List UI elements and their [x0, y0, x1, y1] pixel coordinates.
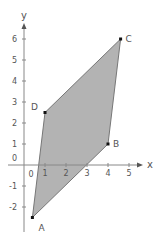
- y-tick-label: 1: [12, 140, 17, 149]
- point-c-marker: [119, 38, 122, 41]
- point-d-label: D: [31, 102, 38, 112]
- point-d-marker: [44, 111, 47, 114]
- y-axis-arrow-icon: [22, 23, 27, 29]
- origin-label-y: 0: [12, 154, 17, 163]
- parallelogram-abcd: [32, 39, 120, 218]
- parallelogram-chart: xy12345-2-112345600ABCD: [0, 0, 160, 244]
- y-tick-label: -1: [9, 182, 17, 191]
- point-c-label: C: [126, 34, 132, 44]
- y-tick-label: 4: [12, 77, 17, 86]
- point-b-marker: [107, 143, 110, 146]
- point-a-label: A: [38, 223, 45, 233]
- x-axis-title: x: [147, 159, 153, 170]
- x-tick-label: 1: [42, 169, 47, 178]
- y-axis-title: y: [21, 10, 27, 21]
- y-tick-label: -2: [9, 203, 17, 212]
- y-tick-label: 5: [12, 56, 17, 65]
- point-b-label: B: [113, 139, 119, 149]
- x-tick-label: 2: [63, 169, 68, 178]
- origin-label-x: 0: [28, 170, 33, 179]
- x-tick-label: 5: [126, 169, 131, 178]
- x-tick-label: 3: [84, 169, 89, 178]
- x-tick-label: 4: [105, 169, 110, 178]
- x-axis-arrow-icon: [137, 163, 143, 168]
- y-tick-label: 3: [12, 98, 17, 107]
- y-tick-label: 2: [12, 119, 17, 128]
- point-a-marker: [31, 216, 34, 219]
- y-tick-label: 6: [12, 35, 17, 44]
